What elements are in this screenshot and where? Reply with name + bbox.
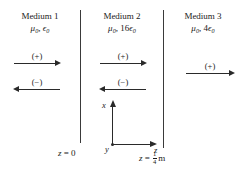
medium-2-eps-sub: 0: [133, 28, 136, 34]
medium-2-eps-coeff: 16: [120, 23, 129, 33]
medium-3-label: Medium 3 μ0, 4ϵ0: [168, 10, 238, 37]
zq-fraction: 14: [153, 151, 157, 165]
medium-1-title: Medium 1: [4, 10, 76, 22]
coordinate-axes: x z y: [112, 100, 162, 148]
wave-sign-medium3-plus: (+): [186, 62, 234, 71]
y-axis-label: y: [105, 145, 109, 154]
z-axis-line: [112, 144, 152, 145]
z0-value: 0: [71, 148, 76, 158]
arrow-head-left-icon: [13, 86, 19, 92]
arrow-shaft: [186, 73, 230, 74]
medium-2-properties: μ0, 16ϵ0: [86, 22, 158, 37]
arrow-shaft: [18, 89, 60, 90]
x-axis-label: x: [102, 101, 106, 110]
medium-1-label: Medium 1 μ0, ϵ0: [4, 10, 76, 37]
wave-propagation-diagram: Medium 1 μ0, ϵ0 Medium 2 μ0, 16ϵ0 Medium…: [0, 0, 239, 170]
wave-sign-medium2-minus: (−): [100, 78, 146, 87]
arrow-head-right-icon: [229, 70, 235, 76]
arrow-head-right-icon: [55, 60, 61, 66]
arrow-head-right-icon: [141, 60, 147, 66]
origin-point: [111, 143, 114, 146]
boundary-label-z-quarter: z = 14m: [139, 151, 165, 165]
boundary-line-z-quarter: [163, 10, 164, 148]
medium-1-properties: μ0, ϵ0: [4, 22, 76, 37]
arrow-head-left-icon: [99, 86, 105, 92]
medium-2-title: Medium 2: [86, 10, 158, 22]
zq-unit: m: [158, 153, 165, 163]
arrow-shaft: [104, 89, 146, 90]
x-axis-line: [112, 104, 113, 145]
zq-denominator: 4: [153, 159, 157, 166]
boundary-label-z0: z = 0: [58, 148, 76, 158]
arrow-shaft: [100, 63, 142, 64]
x-axis-arrow-icon: [110, 100, 116, 107]
medium-2-label: Medium 2 μ0, 16ϵ0: [86, 10, 158, 37]
wave-sign-medium1-minus: (−): [14, 78, 60, 87]
arrow-shaft: [14, 63, 56, 64]
wave-sign-medium1-plus: (+): [14, 52, 60, 61]
wave-sign-medium2-plus: (+): [100, 52, 146, 61]
medium-1-eps-sub: 0: [46, 28, 49, 34]
medium-3-eps-sub: 0: [212, 28, 215, 34]
medium-3-properties: μ0, 4ϵ0: [168, 22, 238, 37]
zq-eq: =: [143, 153, 153, 163]
boundary-line-z0: [80, 10, 81, 143]
z0-eq: =: [62, 148, 72, 158]
medium-3-title: Medium 3: [168, 10, 238, 22]
